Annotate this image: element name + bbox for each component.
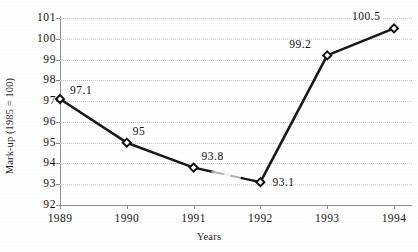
series-line-segment	[60, 99, 127, 143]
data-point-value-label: 93.1	[272, 176, 294, 188]
x-axis-tick-mark	[60, 205, 61, 209]
line-chart: Mark-up (1985 = 100) 1011009998979695949…	[0, 0, 418, 252]
x-axis-title: Years	[0, 231, 418, 242]
x-axis-tick-label: 1990	[105, 212, 149, 224]
x-axis-tick-mark	[127, 205, 128, 209]
x-axis-tick-label: 1993	[305, 212, 349, 224]
series-line-segment	[327, 28, 394, 55]
x-axis-tick-label: 1991	[172, 212, 216, 224]
x-axis-tick-mark	[194, 205, 195, 209]
x-axis-tick-mark	[260, 205, 261, 209]
data-point-value-label: 100.5	[352, 10, 380, 22]
data-point-value-label: 93.8	[202, 150, 224, 162]
series-line-segment	[260, 55, 327, 182]
series-line-segment	[212, 172, 224, 175]
x-axis-tick-label: 1994	[372, 212, 416, 224]
data-point-value-label: 99.2	[289, 38, 311, 50]
x-axis-tick-label: 1989	[38, 212, 82, 224]
series-line-segment	[127, 143, 194, 168]
x-axis-tick-mark	[327, 205, 328, 209]
series-line-segment	[224, 174, 231, 175]
data-point-marker	[190, 164, 198, 172]
data-point-value-label: 95	[133, 125, 146, 137]
data-point-value-label: 97.1	[70, 84, 92, 96]
x-axis-tick-label: 1992	[238, 212, 282, 224]
data-point-marker	[390, 24, 398, 32]
x-axis-tick-mark	[394, 205, 395, 209]
